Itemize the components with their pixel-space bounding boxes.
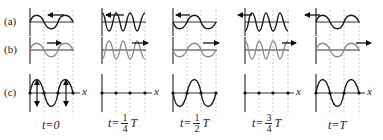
panel-t3 (238, 8, 296, 115)
time-label-t4: t=T (328, 118, 346, 133)
time-label-t3: t= 34 T (252, 113, 281, 134)
panel-t4 (305, 8, 371, 115)
panel-t0 (28, 8, 80, 115)
time-label-t1: t= 14 T (108, 113, 137, 134)
row-label-c: (c) (4, 86, 16, 98)
x-axis-label: x (154, 85, 159, 97)
row-label-a: (a) (4, 15, 16, 27)
x-axis-label: x (82, 85, 87, 97)
row-label-b: (b) (4, 43, 17, 55)
x-axis-label: x (367, 85, 372, 97)
x-axis-label: x (296, 85, 301, 97)
time-label-t0: t=0 (42, 118, 59, 133)
time-label-t2: t= 12 T (180, 113, 209, 134)
panel-t1 (100, 8, 152, 115)
panel-t2 (171, 8, 219, 115)
